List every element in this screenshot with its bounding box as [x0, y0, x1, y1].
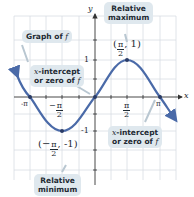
x-axis-label: x: [184, 91, 189, 100]
x-tick-neg-half-pi: −π2: [49, 101, 63, 119]
min-point-label: (−π2, -1): [38, 138, 78, 158]
x-tick-neg-pi: -π: [21, 100, 28, 108]
y-tick-neg1: -1: [81, 126, 89, 135]
callout-relative-minimum: Relativeminimum: [34, 174, 81, 196]
callout-x-intercept-right: x-interceptor zero of f: [108, 126, 162, 148]
callout-graph-of-f: Graph of f: [22, 30, 72, 43]
y-axis-label: y: [88, 4, 93, 13]
callout-relative-maximum: Relativemaximum: [104, 2, 153, 24]
x-tick-pi: π: [156, 100, 161, 108]
callout-x-intercept-left: x-interceptor zero of f: [30, 65, 84, 87]
max-point-label: (π2, 1): [113, 38, 141, 58]
x-tick-half-pi: π2: [123, 101, 130, 119]
y-tick-1: 1: [84, 55, 89, 64]
